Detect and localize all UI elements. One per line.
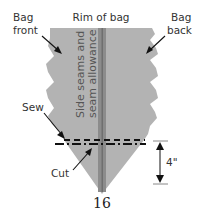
figure-number: 16 — [93, 195, 111, 211]
bag-front-label: Bag — [13, 11, 33, 23]
bag-back-label: Bag — [171, 11, 191, 23]
rim-of-bag-label: Rim of bag — [72, 11, 129, 23]
cut-label: Cut — [51, 167, 69, 179]
bag-front-label-2: front — [13, 24, 38, 36]
bag-back-label-2: back — [167, 24, 193, 36]
sew-label: Sew — [22, 101, 44, 113]
side-seams-label-2: seam allowance — [86, 29, 99, 118]
dimension-arrow-down — [156, 175, 164, 183]
dimension-arrow-up — [156, 142, 164, 150]
side-seam-stitch — [102, 28, 104, 192]
bag-diagram: Bag front Rim of bag Bag back Side seams… — [0, 0, 202, 218]
measurement-label: 4" — [166, 156, 178, 168]
